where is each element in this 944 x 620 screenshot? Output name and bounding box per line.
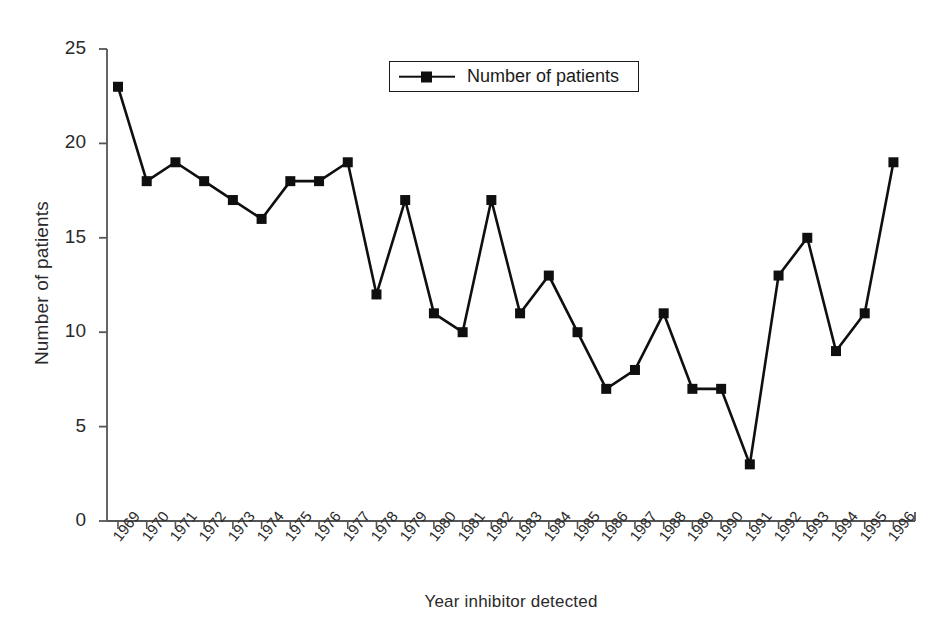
data-point-marker [228, 195, 238, 205]
data-point-marker [486, 195, 496, 205]
y-tick-label: 5 [46, 416, 86, 435]
data-point-marker [802, 233, 812, 243]
data-point-marker [314, 176, 324, 186]
data-point-marker [630, 365, 640, 375]
square-marker-icon [399, 70, 455, 84]
y-tick-label: 10 [46, 321, 86, 340]
data-point-marker [458, 327, 468, 337]
data-point-marker [400, 195, 410, 205]
data-point-marker [113, 82, 123, 92]
data-point-marker [343, 157, 353, 167]
data-point-marker [257, 214, 267, 224]
data-point-marker [371, 289, 381, 299]
data-point-marker [573, 327, 583, 337]
data-point-marker [687, 384, 697, 394]
axis-lines [107, 49, 915, 521]
legend-entry-label: Number of patients [467, 66, 619, 87]
data-point-marker [888, 157, 898, 167]
data-point-marker [716, 384, 726, 394]
y-tick-label: 0 [46, 510, 86, 529]
data-point-marker [515, 308, 525, 318]
data-point-marker [199, 176, 209, 186]
data-series-markers [113, 82, 898, 470]
y-tick-label: 15 [46, 227, 86, 246]
data-point-marker [285, 176, 295, 186]
data-point-marker [831, 346, 841, 356]
data-point-marker [659, 308, 669, 318]
x-axis-title: Year inhibitor detected [107, 592, 915, 612]
y-tick-label: 20 [46, 132, 86, 151]
line-chart-figure: Number of patients 0510152025 1969197019… [0, 0, 944, 620]
data-point-marker [170, 157, 180, 167]
data-point-marker [429, 308, 439, 318]
data-point-marker [544, 271, 554, 281]
y-tick-marks [99, 49, 107, 521]
chart-legend: Number of patients [389, 61, 639, 92]
data-point-marker [745, 459, 755, 469]
data-point-marker [774, 271, 784, 281]
data-point-marker [860, 308, 870, 318]
data-point-marker [142, 176, 152, 186]
y-tick-label: 25 [46, 38, 86, 57]
data-point-marker [601, 384, 611, 394]
y-axis-tick-labels: 0510152025 [0, 0, 86, 620]
legend-entry: Number of patients [390, 62, 638, 91]
